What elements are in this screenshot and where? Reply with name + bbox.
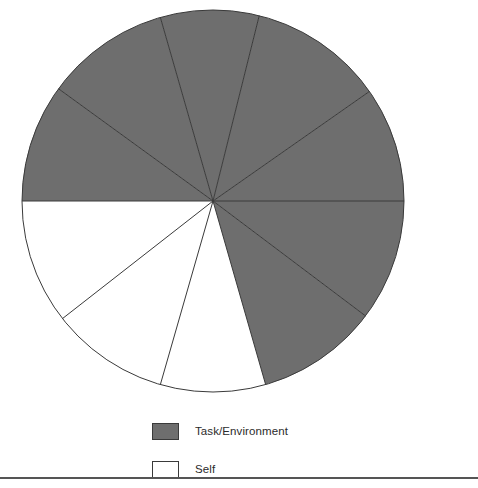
legend-swatch-task-environment xyxy=(152,423,179,440)
legend-swatch-self xyxy=(152,461,179,478)
pie-chart-canvas xyxy=(0,0,478,488)
legend-label-self: Self xyxy=(195,463,215,475)
legend-label-task-environment: Task/Environment xyxy=(195,425,288,437)
legend-item-task-environment: Task/Environment xyxy=(152,418,372,444)
bottom-divider xyxy=(0,477,478,479)
pie-chart-figure: Task/Environment Self xyxy=(0,0,478,488)
